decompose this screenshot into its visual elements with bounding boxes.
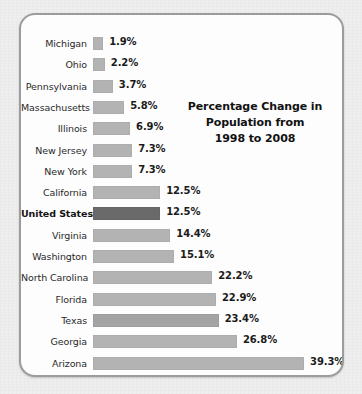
bar-category-label: Massachusetts [21,102,87,113]
bar-track [93,271,212,284]
bar-category-label: New York [21,166,87,177]
bar-value-label: 26.8% [243,334,277,345]
bar-category-label: Georgia [21,336,87,347]
bar-value-label: 14.4% [176,228,210,239]
bar-row: Washington15.1% [21,246,342,267]
bar-track [93,37,103,50]
bar-row: Pennsylvania3.7% [21,76,342,97]
bar-value-label: 7.3% [138,164,165,175]
bar-track [93,357,304,370]
bar-value-label: 7.3% [138,143,165,154]
bar-category-label: Pennsylvania [21,81,87,92]
bar-value-label: 12.5% [166,206,200,217]
bar-row: North Carolina22.2% [21,267,342,288]
bar [93,229,170,242]
bar-value-label: 2.2% [111,57,138,68]
bar-track [93,101,124,114]
bar [93,122,130,135]
bar-track [93,314,219,327]
bar-track [93,80,113,93]
bar-value-label: 22.9% [222,292,256,303]
bar [93,314,219,327]
bar [93,58,105,71]
bar-track [93,122,130,135]
bar-track [93,335,237,348]
bar-category-label: Virginia [21,230,87,241]
bar [93,207,160,220]
bar [93,293,216,306]
bar-category-label: Texas [21,315,87,326]
chart-title-line-1: Percentage Change in [169,99,341,115]
bar [93,165,132,178]
bar-value-label: 15.1% [180,249,214,260]
bar-category-label: Florida [21,294,87,305]
bar-row: California12.5% [21,182,342,203]
bar-value-label: 23.4% [225,313,259,324]
bar-row: New York7.3% [21,161,342,182]
bar [93,80,113,93]
bar-row: Arizona39.3% [21,353,342,374]
bar-value-label: 22.2% [218,270,252,281]
bar-chart-plot-area: Michigan1.9%Ohio2.2%Pennsylvania3.7%Mass… [21,15,342,375]
bar-row: Georgia26.8% [21,331,342,352]
bar-track [93,58,105,71]
bar-track [93,144,132,157]
bar-category-label: United States [21,208,87,219]
bar [93,357,304,370]
bar-value-label: 1.9% [109,36,136,47]
chart-frame: Michigan1.9%Ohio2.2%Pennsylvania3.7%Mass… [19,13,344,377]
bar-value-label: 6.9% [136,121,163,132]
bar-row: Texas23.4% [21,310,342,331]
bar-category-label: Arizona [21,358,87,369]
chart-title: Percentage Change in Population from 199… [169,99,341,147]
bar-row: Florida22.9% [21,289,342,310]
bar-category-label: New Jersey [21,145,87,156]
bar-category-label: North Carolina [21,272,87,283]
bar-value-label: 3.7% [119,79,146,90]
bar-value-label: 5.8% [130,100,157,111]
bar-row: United States12.5% [21,203,342,224]
bar-value-label: 39.3% [310,356,344,367]
bar-track [93,229,170,242]
bar-value-label: 12.5% [166,185,200,196]
bar-category-label: Washington [21,251,87,262]
bar [93,335,237,348]
bar-track [93,293,216,306]
bar-row: Virginia14.4% [21,225,342,246]
bar-track [93,207,160,220]
bar-category-label: California [21,187,87,198]
bar [93,271,212,284]
bar [93,250,174,263]
bar-category-label: Michigan [21,38,87,49]
bar [93,37,103,50]
bar-row: Ohio2.2% [21,54,342,75]
bar-track [93,250,174,263]
chart-title-line-3: 1998 to 2008 [169,131,341,147]
bar [93,101,124,114]
bar-category-label: Ohio [21,59,87,70]
chart-title-line-2: Population from [169,115,341,131]
bar-category-label: Illinois [21,123,87,134]
bar-track [93,186,160,199]
bar-track [93,165,132,178]
bar [93,186,160,199]
bar [93,144,132,157]
bar-row: Michigan1.9% [21,33,342,54]
